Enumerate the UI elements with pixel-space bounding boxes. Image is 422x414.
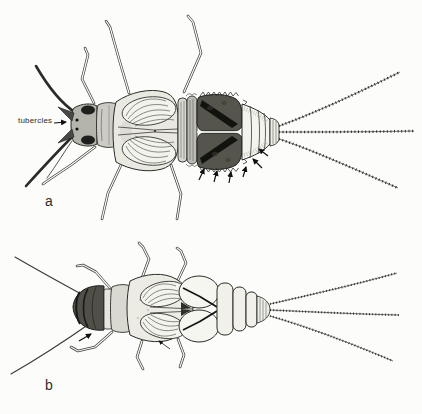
panel-a-label: a	[45, 193, 53, 209]
tubercles-arrow-icon	[54, 122, 66, 123]
nymph-a-head	[58, 104, 97, 146]
head-arrow-icon-b	[79, 334, 91, 341]
nymph-a-tails	[279, 72, 414, 188]
illustration-svg	[0, 0, 422, 414]
nymph-a	[26, 16, 414, 219]
nymph-a-abdomen	[242, 104, 279, 160]
tubercles-label: tubercles	[18, 116, 52, 125]
wing-pad-arrow-icon-b	[159, 341, 170, 349]
nymph-b-tails	[270, 273, 399, 361]
panel-b-label: b	[45, 377, 53, 393]
nymph-b	[11, 243, 399, 374]
nymph-b-abdomen	[217, 283, 270, 335]
nymph-a-metanotum-bands	[178, 94, 197, 167]
figure-canvas: tubercles a b	[0, 0, 422, 414]
nymph-b-head	[73, 286, 112, 330]
tubercle-dot	[75, 118, 78, 121]
nymph-a-thorax-wingpads	[113, 90, 178, 170]
tubercle-dot	[75, 127, 78, 130]
